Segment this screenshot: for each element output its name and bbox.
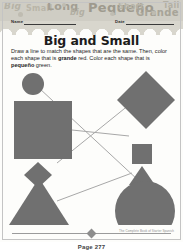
footer: The Complete Book of Starter Spanish (0, 228, 183, 242)
decor-word-8: Tall (163, 1, 180, 10)
date-input-rule[interactable] (126, 24, 174, 25)
name-input-rule[interactable] (24, 24, 76, 25)
name-label: Name (11, 19, 23, 24)
footer-diamond-ornament-icon (87, 228, 97, 238)
instructions-text: Draw a line to match the shapes that are… (11, 48, 174, 69)
page-title: Big and Small (0, 33, 183, 48)
name-date-row: Name Date (0, 16, 183, 27)
instruction-fragment-4: green. (34, 62, 51, 68)
shape-circle-small[interactable] (22, 73, 44, 95)
date-label: Date (115, 19, 125, 24)
shape-square-large[interactable] (14, 101, 72, 159)
instruction-keyword-3: pequeño (11, 62, 34, 68)
match-line-square-large-to-square-small[interactable] (72, 130, 129, 136)
decor-blob-icon (62, 3, 66, 7)
worksheet-page: Big Small Long big Pequeño Short Grande … (0, 0, 183, 251)
page-caption: Page 277 (0, 242, 183, 251)
shape-diamond-large[interactable] (117, 71, 175, 129)
shape-triangle-large[interactable] (9, 178, 69, 225)
instruction-keyword-1: grande (58, 55, 77, 61)
shape-square-small[interactable] (132, 144, 152, 164)
decor-blob-icon (152, 11, 156, 15)
decor-word-1: Big (4, 1, 21, 11)
footer-credit: The Complete Book of Starter Spanish (108, 229, 174, 233)
shape-circle-large[interactable] (115, 181, 175, 225)
instruction-fragment-2: red. Color each shape that is (77, 55, 150, 61)
shape-matching-area[interactable] (5, 70, 178, 225)
